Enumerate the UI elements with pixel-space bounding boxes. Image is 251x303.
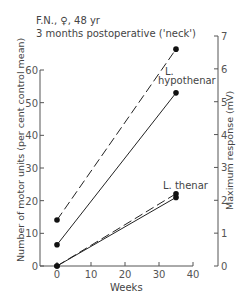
series-line bbox=[57, 93, 176, 245]
x-tick-label: 40 bbox=[187, 269, 200, 280]
data-point bbox=[173, 90, 179, 96]
data-point bbox=[54, 217, 60, 223]
annotation-thenar: L. thenar bbox=[163, 180, 208, 191]
annotation-hypothenar: hypothenar bbox=[158, 75, 216, 86]
y-tick-label: 50 bbox=[25, 98, 38, 109]
y2-tick-label: 7 bbox=[221, 31, 227, 42]
y-tick-label: 10 bbox=[25, 228, 38, 239]
x-tick-label: 20 bbox=[119, 269, 132, 280]
y-tick-label: 60 bbox=[25, 65, 38, 76]
y2-tick-label: 1 bbox=[221, 228, 227, 239]
y2-tick-label: 6 bbox=[221, 64, 227, 75]
y2-axis-label: Maximum response (mV) bbox=[224, 91, 235, 210]
y-tick-label: 20 bbox=[25, 196, 38, 207]
y-axis-label: Number of motor units (per cent control … bbox=[15, 38, 26, 262]
x-axis-label: Weeks bbox=[110, 282, 143, 293]
x-tick-label: 30 bbox=[153, 269, 166, 280]
series-line bbox=[57, 197, 176, 266]
data-point bbox=[173, 46, 179, 52]
x-tick-label: 0 bbox=[54, 269, 60, 280]
y-tick-label: 40 bbox=[25, 130, 38, 141]
data-point bbox=[54, 242, 60, 248]
x-tick-label: 10 bbox=[85, 269, 98, 280]
data-point bbox=[54, 263, 60, 269]
plot-area: 010203040506001020304001234567 bbox=[0, 0, 251, 303]
y2-tick-label: 0 bbox=[221, 261, 227, 272]
y-tick-label: 30 bbox=[25, 163, 38, 174]
data-point bbox=[173, 195, 179, 201]
y-tick-label: 0 bbox=[32, 261, 38, 272]
